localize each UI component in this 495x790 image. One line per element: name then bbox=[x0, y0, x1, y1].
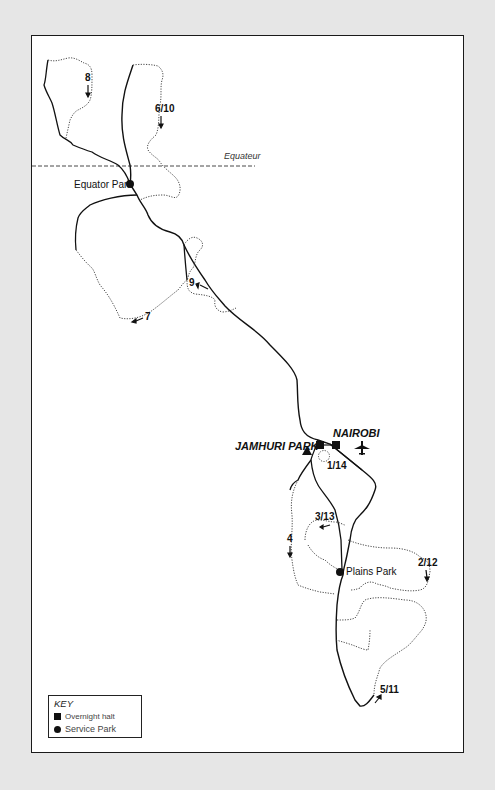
road-4-west bbox=[290, 460, 311, 490]
rally-route-map: Equateur Equator Park Plains Park J bbox=[0, 0, 495, 790]
road-southwest-loop bbox=[75, 195, 137, 250]
key-item-label: Overnight halt bbox=[65, 712, 115, 721]
stage-label-7: 7 bbox=[145, 311, 151, 322]
arrow-down-icon bbox=[288, 553, 292, 557]
stage-label-8: 8 bbox=[85, 72, 91, 83]
nairobi-label: NAIROBI bbox=[333, 427, 380, 439]
jamhuri-park-label: JAMHURI PARK bbox=[235, 440, 320, 452]
map-key: KEY Overnight halt Service Park bbox=[48, 695, 142, 738]
key-item-overnight-halt: Overnight halt bbox=[54, 712, 115, 721]
stage-label-2-12: 2/12 bbox=[418, 557, 438, 568]
circle-icon bbox=[54, 726, 61, 733]
airplane-icon bbox=[354, 441, 370, 455]
arrow-down-icon bbox=[86, 93, 90, 97]
arrow-down-icon bbox=[159, 124, 163, 128]
square-icon bbox=[54, 713, 61, 720]
stage-label-3-13: 3/13 bbox=[315, 511, 335, 522]
plains-park-label: Plains Park bbox=[346, 566, 398, 577]
direction-arrows bbox=[86, 85, 429, 703]
key-title: KEY bbox=[54, 698, 73, 709]
stage-labels: 8 6/10 9 7 1/14 3/13 4 2/12 5/11 bbox=[85, 72, 438, 695]
arrow-left-icon bbox=[196, 283, 199, 288]
equator-park-label: Equator Park bbox=[74, 179, 133, 190]
overnight-halt-nairobi-marker bbox=[332, 441, 340, 449]
stage-label-1-14: 1/14 bbox=[327, 460, 347, 471]
key-item-service-park: Service Park bbox=[54, 724, 116, 734]
service-park-plains-marker bbox=[336, 568, 344, 576]
equator-label: Equateur bbox=[224, 151, 262, 161]
stage-label-9: 9 bbox=[189, 277, 195, 288]
stage-label-4: 4 bbox=[287, 533, 293, 544]
key-item-label: Service Park bbox=[65, 724, 116, 734]
stage-label-5-11: 5/11 bbox=[380, 684, 399, 695]
arrow-down-icon bbox=[425, 577, 429, 581]
arrow-left-icon bbox=[132, 319, 136, 323]
arrow-up-right-icon bbox=[377, 695, 381, 699]
stage-label-6-10: 6/10 bbox=[155, 103, 175, 114]
arrow-left-icon bbox=[320, 525, 323, 529]
